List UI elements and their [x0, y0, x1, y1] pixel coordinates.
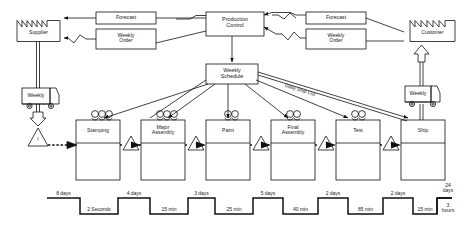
process-time-0: 2 Seconds — [80, 206, 118, 212]
weekly-order-customer-box — [306, 29, 366, 49]
lead-time-5: 2 days — [383, 190, 413, 196]
process-time-3: 40 min — [283, 206, 318, 212]
outbound-truck-icon — [405, 86, 440, 107]
process-time-5: 15 min — [413, 206, 437, 212]
lead-time-4: 2 days — [318, 190, 348, 196]
process-time-1: 15 min — [150, 206, 188, 212]
vsm-canvas — [0, 0, 470, 237]
value-stream-map: Supplier Customer Production Control Wee… — [0, 0, 470, 237]
supplier-factory-icon — [17, 21, 60, 42]
process-time-2: 25 min — [215, 206, 253, 212]
inbound-truck-icon — [22, 88, 59, 109]
lead-time-0: 8 days — [47, 190, 80, 196]
operator-icons — [92, 111, 366, 120]
lead-time-1: 4 days — [118, 190, 150, 196]
weekly-schedule-box — [206, 64, 258, 84]
customer-factory-icon — [410, 21, 455, 42]
total-process-time: 3 hours — [437, 203, 459, 214]
total-lead-time: 24 days — [437, 183, 459, 194]
forecast-customer-box — [306, 12, 366, 24]
weekly-order-supplier-box — [96, 29, 156, 49]
lead-time-2: 3 days — [188, 190, 215, 196]
inventory-marker-0 — [28, 128, 48, 146]
process-time-4: 85 min — [348, 206, 383, 212]
production-control-box — [206, 12, 264, 36]
forecast-supplier-box — [96, 12, 156, 24]
lead-time-3: 5 days — [253, 190, 283, 196]
